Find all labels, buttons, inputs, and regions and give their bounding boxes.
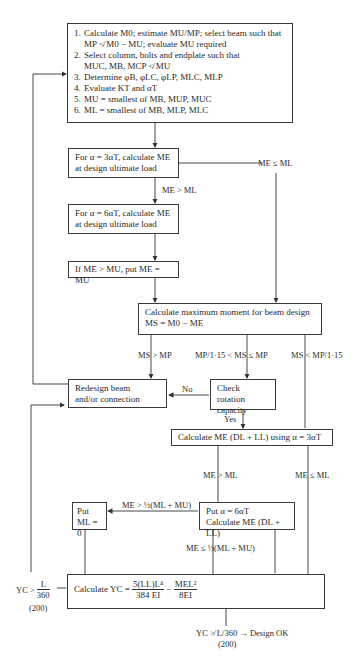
step-5: 5.MU = smallest of MB, MUP, MUC <box>74 94 286 105</box>
box-calc-me-dl-ll: Calculate ME (DL + LL) using α = 3αT <box>171 429 333 446</box>
box-if-me-gt-mu: If ME > MU, put ME = MU <box>68 261 179 278</box>
box-put-ml-zero: Put ML = 0 <box>72 502 107 530</box>
box-redesign: Redesign beam and/or connection <box>68 379 167 408</box>
label-ms-mid: MP/1·15 < MS ≤ MP <box>195 350 268 360</box>
box-check-rotation-line-1: Check rotation <box>217 383 269 405</box>
label-ms-gt-mp: MS > MP <box>138 350 172 360</box>
box-put-ml0-line-1: Put <box>77 506 102 517</box>
box-alpha-6-line-1: For α = 6αT, calculate ME <box>75 208 172 219</box>
box-max-moment: Calculate maximum moment for beam design… <box>138 303 322 335</box>
box-put-ml0-line-2: ML = 0 <box>77 517 102 539</box>
label-design-ok: YC ≯ L/360 → Design OK <box>196 628 288 638</box>
calc-yc-term-1: 5(LL)L⁴ 384 EI <box>132 579 164 600</box>
calc-yc-minus: − <box>166 584 171 594</box>
box-alpha-3-line-2: at design ultimate load <box>75 163 172 174</box>
calc-yc-term-2-den: 8EI <box>174 590 198 600</box>
calc-yc-term-2: MEL² 8EI <box>174 579 198 600</box>
step-2-line-1: 2.Select column, bolts and endplate such… <box>74 50 286 61</box>
step-4: 4.Evaluate KT and αT <box>74 83 286 94</box>
box-put-alpha6-line-2: Calculate ME (DL + LL) <box>206 517 288 539</box>
box-check-rotation: Check rotation capacity <box>210 379 276 410</box>
box-max-moment-line-2: MS = M0 − ME <box>145 318 315 329</box>
calc-yc-term-1-num: 5(LL)L⁴ <box>132 579 164 590</box>
label-me-gt-ml-bottom: ME > ML <box>203 470 238 480</box>
label-me-gt-half: ME > ½(ML + MU) <box>122 500 191 510</box>
box-alpha-3: For α = 3αT, calculate ME at design ulti… <box>68 148 179 178</box>
label-me-gt-ml-top: ME > ML <box>162 185 197 195</box>
box-redesign-line-2: and/or connection <box>75 394 160 405</box>
label-me-le-ml-bottom: ME ≤ ML <box>295 470 329 480</box>
label-yc-gt-limit: YC > L 360 <box>16 579 50 600</box>
start-box: 1.Calculate M0; estimate MU/MP; select b… <box>67 23 293 123</box>
calc-yc-term-1-den: 384 EI <box>132 590 164 600</box>
label-yc-gt-alt: (200) <box>29 603 47 613</box>
calc-yc-term-2-num: MEL² <box>174 579 198 590</box>
label-me-le-half: ME ≤ ½(ML + MU) <box>186 543 255 553</box>
label-no: No <box>182 384 192 394</box>
yc-gt-den: 360 <box>37 590 50 600</box>
box-max-moment-line-1: Calculate maximum moment for beam design <box>145 307 315 318</box>
step-1-line-1: 1.Calculate M0; estimate MU/MP; select b… <box>74 28 286 39</box>
box-redesign-line-1: Redesign beam <box>75 383 160 394</box>
step-3: 3.Determine φB, φLC, φLP, MLC, MLP <box>74 72 286 83</box>
box-put-alpha-6: Put α = 6αT Calculate ME (DL + LL) <box>199 502 295 530</box>
step-1-line-2: MP ≮ M0 − MU; evaluate MU required <box>74 39 286 50</box>
yc-gt-num: L <box>37 579 50 590</box>
box-alpha-3-line-1: For α = 3αT, calculate ME <box>75 152 172 163</box>
label-me-le-ml-top: ME ≤ ML <box>258 158 292 168</box>
label-yes: Yes <box>224 414 236 424</box>
label-ms-lt: MS < MP/1·15 <box>291 350 343 360</box>
box-calc-me-dl-text: Calculate ME (DL + LL) using α = 3αT <box>178 432 326 443</box>
box-alpha-6: For α = 6αT, calculate ME at design ulti… <box>68 204 179 234</box>
calc-yc-prefix: Calculate YC = <box>74 584 130 594</box>
box-put-alpha6-line-1: Put α = 6αT <box>206 506 288 517</box>
yc-gt-fraction: L 360 <box>37 579 50 600</box>
box-alpha-6-line-2: at design ultimate load <box>75 219 172 230</box>
box-if-me-text: If ME > MU, put ME = MU <box>75 264 172 286</box>
box-calc-yc: Calculate YC = 5(LL)L⁴ 384 EI − MEL² 8EI <box>67 574 325 609</box>
yc-gt-prefix: YC > <box>16 585 35 595</box>
step-2-line-2: MUC, MB, MCP ≮ MU <box>74 61 286 72</box>
label-design-ok-alt: (200) <box>218 639 236 649</box>
step-6: 6.ML = smallest of MB, MLP, MLC <box>74 105 286 116</box>
